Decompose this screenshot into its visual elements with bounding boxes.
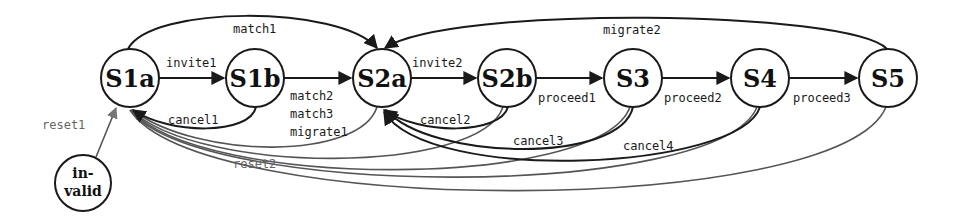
node-s4: S4 [731,49,789,107]
edge-label-match1: match1 [233,22,276,36]
node-label-s3: S3 [616,64,650,93]
node-s1a: S1a [101,49,159,107]
node-s5: S5 [859,49,917,107]
edge-label-cancel4: cancel4 [623,139,674,153]
node-invalid: in- valid [55,155,111,211]
edge-label-proceed1: proceed1 [538,91,596,105]
edge-reset1 [96,108,116,157]
edge-label-reset1: reset1 [42,118,85,132]
node-s1b: S1b [226,49,284,107]
edge-label-invite1: invite1 [166,56,217,70]
edge-label-migrate2: migrate2 [603,23,661,37]
edge-label-match2: match2 [290,89,333,103]
edge-label-proceed3: proceed3 [793,91,851,105]
node-label-s1a: S1a [105,64,155,93]
node-label-s2a: S2a [357,64,407,93]
node-s2b: S2b [478,49,536,107]
edge-label-migrate1: migrate1 [290,125,348,139]
node-label-s1b: S1b [230,64,281,93]
node-label-invalid-line1: in- [72,165,93,181]
edge-label-cancel2: cancel2 [420,113,471,127]
edge-label-cancel1: cancel1 [168,113,219,127]
edge-label-match3: match3 [290,107,333,121]
node-label-invalid-line2: valid [63,183,102,199]
node-label-s5: S5 [871,64,905,93]
node-s3: S3 [604,49,662,107]
edge-label-cancel3: cancel3 [513,134,564,148]
node-label-s4: S4 [743,64,777,93]
state-diagram: reset2 reset1 match1 migrate2 invite1 ca… [0,0,961,223]
node-label-s2b: S2b [482,64,533,93]
edge-label-invite2: invite2 [412,56,463,70]
edge-label-reset2: reset2 [233,157,276,171]
node-s2a: S2a [353,49,411,107]
edge-label-proceed2: proceed2 [664,91,722,105]
